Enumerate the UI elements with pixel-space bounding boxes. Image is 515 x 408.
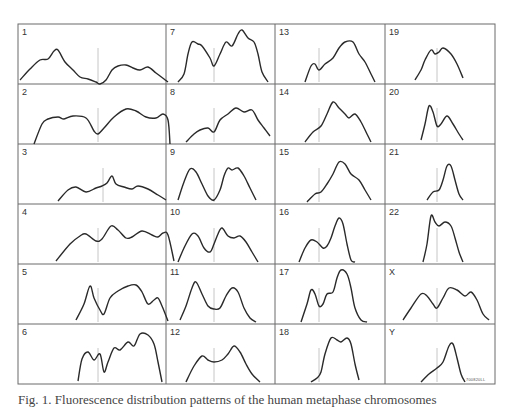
fluorescence-curve [307, 161, 371, 202]
panel-chromosome-17: 17 [279, 267, 367, 322]
panel-label: Y [389, 327, 395, 337]
panel-chromosome-18: 18 [279, 327, 359, 382]
panel-label: X [389, 267, 395, 277]
panel-label: 8 [170, 87, 175, 97]
panel-label: 5 [22, 267, 27, 277]
panel-chromosome-7: 7 [170, 27, 268, 82]
panel-chromosome-20: 20 [389, 87, 463, 142]
panel-label: 3 [22, 147, 27, 157]
panel-label: 21 [389, 147, 399, 157]
panel-label: 4 [22, 207, 27, 217]
panel-label: 15 [279, 147, 289, 157]
fluorescence-curve [76, 285, 168, 321]
panel-label: 20 [389, 87, 399, 97]
panel-chromosome-13: 13 [279, 27, 375, 82]
fluorescence-curve [34, 109, 170, 144]
panel-label: 10 [170, 207, 180, 217]
panel-chromosome-9: 9 [170, 147, 256, 202]
panel-label: 9 [170, 147, 175, 157]
catalog-stamp: 700820LL [466, 377, 485, 382]
fluorescence-curve [186, 346, 260, 382]
fluorescence-curve [78, 333, 162, 382]
fluorescence-curve [180, 282, 256, 322]
panel-chromosome-3: 3 [22, 147, 166, 202]
panel-label: 22 [389, 207, 399, 217]
panel-chromosome-14: 14 [279, 87, 371, 142]
fluorescence-curve [301, 270, 367, 322]
fluorescence-curve [178, 168, 256, 200]
fluorescence-curve [58, 176, 166, 201]
panel-chromosome-Y: Y [389, 327, 465, 382]
fluorescence-curve [427, 164, 463, 200]
panel-label: 16 [279, 207, 289, 217]
panel-chromosome-21: 21 [389, 147, 463, 202]
panel-chromosome-4: 4 [22, 207, 174, 262]
panel-label: 19 [389, 27, 399, 37]
fluorescence-curve [403, 288, 489, 320]
fluorescence-curve [178, 30, 268, 82]
fluorescence-curve [305, 102, 371, 142]
panel-label: 14 [279, 87, 289, 97]
panel-label: 12 [170, 327, 180, 337]
panel-chromosome-8: 8 [170, 87, 270, 142]
panel-label: 13 [279, 27, 289, 37]
fluorescence-curve [299, 218, 355, 262]
panel-chromosome-5: 5 [22, 267, 168, 322]
panel-chromosome-22: 22 [389, 207, 463, 262]
panel-chromosome-2: 2 [22, 87, 170, 144]
fluorescence-curve [178, 228, 258, 262]
fluorescence-curve [186, 108, 270, 142]
panel-label: 18 [279, 327, 289, 337]
fluorescence-curve [56, 226, 174, 261]
panel-label: 7 [170, 27, 175, 37]
figure-caption: Fig. 1. Fluorescence distribution patter… [18, 392, 436, 408]
panel-chromosome-19: 19 [389, 27, 463, 82]
panel-label: 1 [22, 27, 27, 37]
fluorescence-curve [421, 106, 463, 140]
panel-chromosome-6: 6 [22, 327, 162, 382]
fluorescence-curve [423, 215, 463, 262]
panel-label: 11 [170, 267, 179, 277]
panel-chromosome-15: 15 [279, 147, 371, 202]
panel-chromosome-16: 16 [279, 207, 355, 262]
panel-label: 6 [22, 327, 27, 337]
panel-chromosome-10: 10 [170, 207, 258, 262]
panel-chromosome-11: 11 [170, 267, 256, 322]
panel-chromosome-X: X [389, 267, 489, 322]
fluorescence-curve [415, 48, 463, 80]
panel-chromosome-12: 12 [170, 327, 260, 382]
fluorescence-curve [311, 337, 359, 382]
panel-label: 17 [279, 267, 289, 277]
fluorescence-curve [20, 49, 168, 84]
panel-label: 2 [22, 87, 27, 97]
fluorescence-curve [421, 343, 465, 382]
panel-chromosome-1: 1 [20, 27, 168, 84]
fluorescence-curve [305, 41, 375, 82]
